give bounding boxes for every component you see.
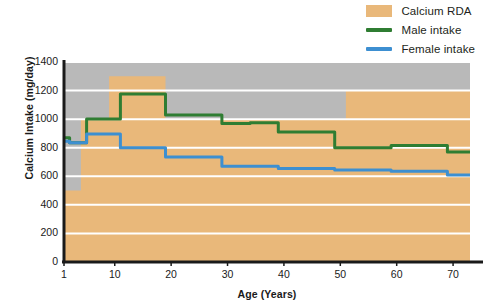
female-intake-line-icon <box>366 47 392 51</box>
x-tick-label: 60 <box>391 268 403 280</box>
x-tick-label: 20 <box>165 268 177 280</box>
calcium-intake-chart: Calcium RDA Male intake Female intake Ca… <box>0 0 483 307</box>
y-axis-ticks: 1400120010008006004002000 <box>24 0 58 307</box>
chart-legend: Calcium RDA Male intake Female intake <box>366 2 475 59</box>
legend-label-calcium-rda: Calcium RDA <box>401 5 471 17</box>
legend-item-male-intake: Male intake <box>366 21 475 38</box>
legend-label-female-intake: Female intake <box>401 43 475 55</box>
y-tick-label: 0 <box>24 255 58 267</box>
y-tick-label: 600 <box>24 169 58 181</box>
x-tick-label: 1 <box>61 268 67 280</box>
y-tick-label: 200 <box>24 226 58 238</box>
x-tick-label: 10 <box>109 268 121 280</box>
x-tick-label: 30 <box>222 268 234 280</box>
y-tick-label: 1200 <box>24 84 58 96</box>
male-intake-line-icon <box>366 28 392 32</box>
legend-label-male-intake: Male intake <box>401 24 461 36</box>
legend-item-female-intake: Female intake <box>366 40 475 57</box>
y-tick-label: 400 <box>24 198 58 210</box>
legend-item-calcium-rda: Calcium RDA <box>366 2 475 19</box>
x-tick-label: 50 <box>334 268 346 280</box>
y-tick-label: 800 <box>24 141 58 153</box>
x-axis-title: Age (Years) <box>64 288 470 300</box>
x-axis-ticks: 110203040506070 <box>0 268 483 284</box>
calcium-rda-swatch-icon <box>366 5 392 17</box>
y-tick-label: 1000 <box>24 112 58 124</box>
x-tick-label: 70 <box>447 268 459 280</box>
y-tick-label: 1400 <box>24 55 58 67</box>
x-tick-label: 40 <box>278 268 290 280</box>
